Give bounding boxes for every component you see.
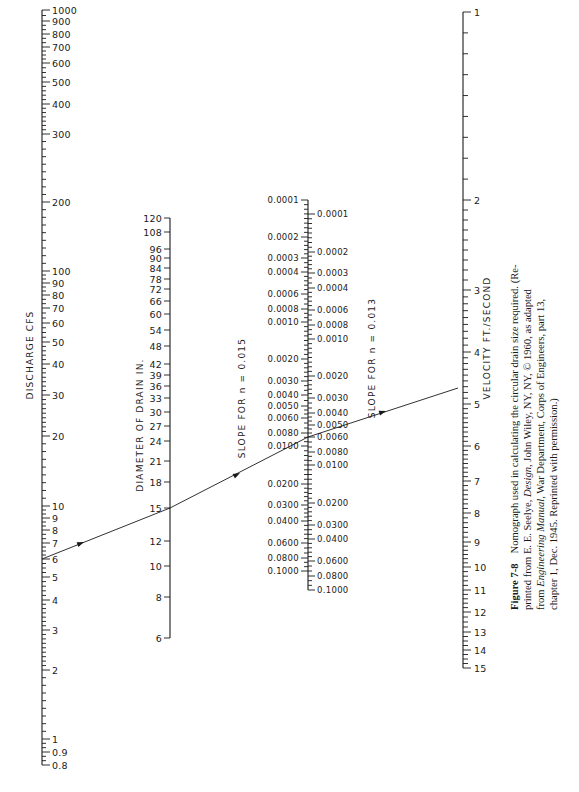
tick-label: 80 [52,290,65,301]
tick-label-n013: 0.0400 [317,534,349,544]
tick-label: 9 [474,537,480,548]
tick-label: 66 [150,296,163,307]
tick-label-n015: 0.0004 [267,267,299,277]
tick-label-n013: 0.0600 [317,556,349,566]
tick-label: 33 [150,393,163,404]
tick-label: 10 [150,561,163,572]
tick-label-n013: 0.0060 [317,432,349,442]
nomograph: 1000900800700600500400300200100908070605… [0,0,579,792]
tick-label-n013: 0.0001 [317,209,349,219]
tick-label: 48 [150,341,163,352]
solution-path [42,388,458,559]
tick-label: 3 [52,625,58,636]
tick-label-n015: 0.0008 [267,304,299,314]
tick-label: 54 [150,325,163,336]
svg-text:Figure 7-8 Nomograph use: Figure 7-8 Nomograph used in calculating… [504,264,521,610]
tick-label: 100 [52,266,71,277]
tick-label-n015: 0.0080 [267,428,299,438]
tick-label-n013: 0.0080 [317,447,349,457]
tick-label-n013: 0.0800 [317,571,349,581]
tick-label-n013: 0.0300 [317,520,349,530]
tick-label: 6 [156,633,162,644]
tick-label: 40 [52,359,65,370]
tick-label: 18 [150,477,163,488]
tick-label-n015: 0.0010 [267,317,299,327]
tick-label-n013: 0.0004 [317,283,349,293]
tick-label-n015: 0.0200 [267,479,299,489]
tick-label: 3 [474,285,480,296]
tick-label: 120 [143,213,162,224]
tick-label-n015: 0.0600 [267,538,299,548]
arrow-icon [77,540,85,547]
solution-line [42,388,458,559]
tick-label: 6 [474,441,480,452]
tick-label-n013: 0.0002 [317,247,349,257]
tick-label: 1000 [52,5,77,16]
tick-label-n015: 0.0001 [267,195,299,205]
tick-label: 200 [52,197,71,208]
figure-caption: Figure 7-8 Nomograph used in calculating… [504,264,560,610]
tick-label: 8 [156,592,162,603]
svg-text:printed from E. E. Seelye, Des: printed from E. E. Seelye, Design, John … [522,288,533,610]
tick-label: 27 [150,421,163,432]
tick-label: 60 [52,318,65,329]
tick-label: 5 [52,572,58,583]
tick-label: 39 [150,370,163,381]
tick-label: 1 [474,7,480,18]
tick-label-n013: 0.0010 [317,334,349,344]
tick-label: 0.8 [52,760,68,771]
tick-label-n015: 0.0300 [267,500,299,510]
tick-label-n015: 0.0800 [267,553,299,563]
tick-label: 9 [52,513,58,524]
discharge-axis: 1000900800700600500400300200100908070605… [42,5,77,771]
tick-label: 11 [474,585,487,596]
tick-label: 72 [150,284,163,295]
tick-label-n015: 0.1000 [267,566,299,576]
caption-figure-label: Figure 7-8 [509,563,520,610]
tick-label: 42 [150,359,163,370]
tick-label: 1 [52,734,58,745]
tick-label: 8 [52,525,58,536]
tick-label: 2 [52,665,58,676]
tick-label-n015: 0.0020 [267,354,299,364]
velocity-axis-title: VELOCITY FT./SECOND [482,277,492,400]
tick-label: 24 [150,436,163,447]
tick-label: 12 [474,607,487,618]
tick-label: 4 [52,595,58,606]
tick-label: 6 [52,554,58,565]
tick-label: 0.9 [52,747,68,758]
tick-label: 10 [474,562,487,573]
tick-label: 300 [52,129,71,140]
tick-label-n013: 0.0200 [317,498,349,508]
tick-label-n013: 0.0003 [317,268,349,278]
tick-label: 400 [52,99,71,110]
tick-label: 36 [150,381,163,392]
tick-label: 60 [150,309,163,320]
tick-label: 500 [52,77,71,88]
tick-label: 20 [52,431,65,442]
tick-label: 50 [52,337,65,348]
tick-label: 7 [474,476,480,487]
tick-label-n013: 0.0020 [317,371,349,381]
tick-label-n015: 0.0040 [267,390,299,400]
discharge-axis-title: DISCHARGE CFS [25,311,35,400]
caption-line-4: chapter 1, Dec. 1945. Reprinted with per… [548,398,560,610]
tick-label-n015: 0.0060 [267,413,299,423]
tick-label: 14 [474,645,487,656]
tick-label-n015: 0.0003 [267,253,299,263]
slope-n013-axis-title: SLOPE FOR n = 0.013 [367,298,377,418]
tick-label-n013: 0.0100 [317,460,349,470]
tick-label-n015: 0.0030 [267,376,299,386]
diameter-axis-title: DIAMETER OF DRAIN IN. [135,358,145,491]
tick-label: 30 [52,390,65,401]
tick-label-n015: 0.0006 [267,289,299,299]
tick-label: 5 [474,399,480,410]
tick-label: 90 [52,278,65,289]
tick-label-n013: 0.0006 [317,305,349,315]
slope-axes: 0.00010.00020.00030.00040.00060.00080.00… [267,195,348,595]
tick-label: 10 [52,501,65,512]
tick-label-n013: 0.0030 [317,393,349,403]
tick-label-n013: 0.0008 [317,320,349,330]
tick-label: 108 [143,227,162,238]
tick-label: 2 [474,195,480,206]
